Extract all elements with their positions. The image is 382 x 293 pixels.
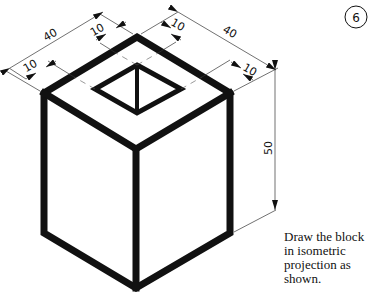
square-hole [95, 65, 181, 113]
instruction-line: projection as [284, 258, 380, 272]
figure-number: 6 [352, 11, 360, 25]
instruction-line: Draw the block [284, 230, 380, 244]
dim-height: 50 [262, 141, 275, 155]
dim-top-right-length: 40 [220, 23, 239, 41]
instruction-line: in isometric [284, 244, 380, 258]
dim-top-right-inner-offset: 10 [168, 16, 187, 34]
figure-number-badge: 6 [345, 6, 367, 28]
dim-right-wall: 10 [240, 61, 259, 79]
instruction-line: shown. [284, 272, 380, 286]
dim-top-left-inner-offset: 10 [88, 21, 107, 39]
dim-top-left-length: 40 [41, 26, 60, 44]
instruction-caption: Draw the block in isometric projection a… [284, 230, 380, 286]
